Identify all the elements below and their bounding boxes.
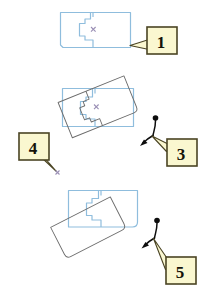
stepped-inner-polygon-middle <box>81 89 96 127</box>
callout-3-box[interactable] <box>167 139 197 166</box>
diagram-svg <box>0 0 207 302</box>
rotated-ghost-outline-middle <box>58 76 138 138</box>
callout-1-tail <box>130 40 149 50</box>
centroid-x-top <box>91 27 96 32</box>
stepped-inner-polygon-top <box>80 13 94 48</box>
callout-5[interactable] <box>154 239 197 285</box>
callout-3[interactable] <box>152 136 197 166</box>
callout-5-box[interactable] <box>166 257 196 284</box>
panel-bottom-rotated-result <box>51 191 138 259</box>
panel-top-original-shape <box>61 13 131 48</box>
outer-rectangle-top <box>61 13 131 48</box>
ghost-outer-rectangle-middle <box>58 76 138 138</box>
rotation-handle-stem-middle <box>153 121 156 136</box>
callout-4[interactable] <box>19 133 60 175</box>
outer-rectangle-bottom <box>69 191 138 228</box>
callout-1[interactable] <box>130 27 177 54</box>
callout-4-box[interactable] <box>19 133 49 160</box>
rotation-handle-middle[interactable] <box>140 115 158 146</box>
panel-middle-rotating-shape <box>58 76 138 138</box>
callout-1-box[interactable] <box>147 27 177 54</box>
centroid-x-middle <box>94 105 99 110</box>
rotated-ghost-rectangle-bottom <box>51 197 127 259</box>
rotated-centroid-x <box>56 171 60 175</box>
ghost-rectangle-bottom <box>51 197 127 259</box>
stepped-inner-polygon-bottom <box>87 191 102 228</box>
rotation-handle-stem-bottom <box>155 223 158 238</box>
diagram-canvas: 1 3 4 5 <box>0 0 207 302</box>
outer-rectangle-middle <box>63 89 134 127</box>
